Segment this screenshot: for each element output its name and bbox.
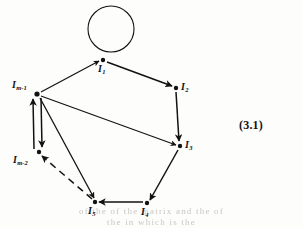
equation-number: (3.1)	[239, 118, 263, 133]
figure-container: of the of the matrix and the of the in w…	[0, 0, 303, 228]
node-label-i2: I2	[181, 82, 188, 92]
node-subscript-i1: 1	[102, 68, 105, 75]
node-label-im1: Im-1	[12, 80, 26, 90]
edge-im2-to-im1	[33, 99, 34, 149]
node-dot-i4[interactable]	[145, 201, 149, 205]
edge-i3-to-i4	[150, 150, 178, 200]
edge-i5-to-im2-dashed	[42, 156, 92, 199]
node-subscript-i4: 4	[145, 211, 148, 218]
node-dot-i3[interactable]	[178, 144, 182, 148]
node-dot-i5[interactable]	[93, 200, 97, 204]
node-dot-im2[interactable]	[37, 150, 41, 154]
node-dot-im1[interactable]	[34, 91, 39, 96]
node-dot-i2[interactable]	[174, 86, 178, 90]
edge-self-loop-i1	[88, 6, 134, 52]
edge-im1-to-i1	[41, 61, 99, 92]
node-dot-i1[interactable]	[101, 58, 105, 62]
node-subscript-im2: m-2	[17, 159, 27, 166]
edge-i2-to-i3	[176, 92, 179, 141]
node-label-im2: Im-2	[13, 155, 27, 165]
node-subscript-i5: 5	[92, 210, 95, 217]
node-subscript-im1: m-1	[16, 84, 26, 91]
edge-im1-to-im2	[41, 98, 42, 147]
node-label-i1: I1	[98, 64, 105, 74]
edge-im1-to-i5	[40, 98, 94, 198]
node-subscript-i3: 3	[189, 144, 192, 151]
directed-graph-canvas	[0, 0, 303, 228]
node-label-i3: I3	[185, 140, 192, 150]
node-label-i5: I5	[88, 206, 95, 216]
node-label-i4: I4	[141, 207, 148, 217]
edge-i1-to-i2	[107, 62, 172, 86]
edge-layer	[33, 6, 179, 202]
node-subscript-i2: 2	[185, 86, 188, 93]
